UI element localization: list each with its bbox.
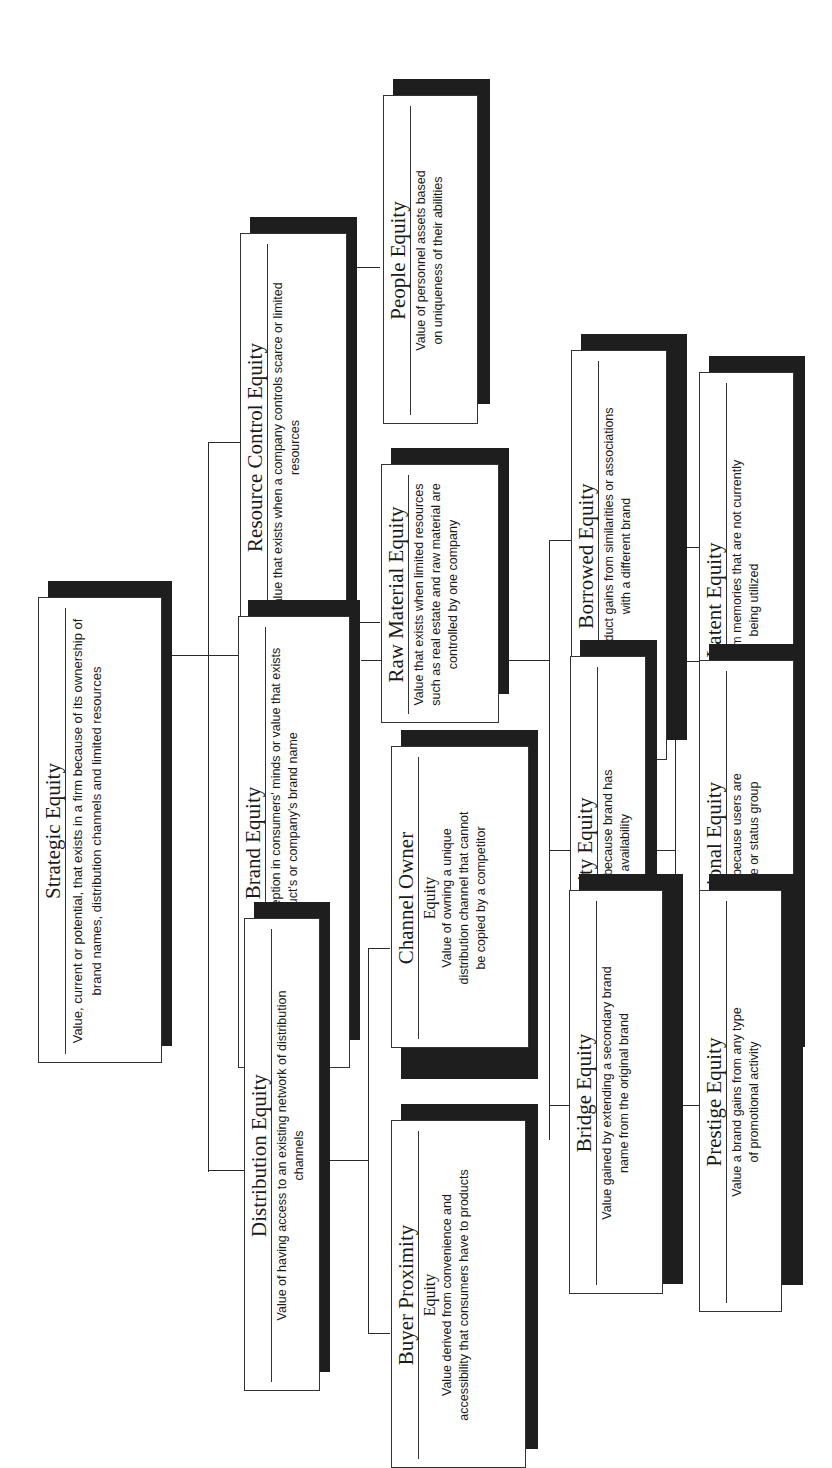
connector bbox=[328, 1160, 368, 1161]
connector bbox=[208, 1170, 244, 1171]
node-title: Channel Owner bbox=[392, 757, 419, 1039]
node-description: Value of owning a unique distribution ch… bbox=[439, 747, 490, 1048]
connector bbox=[549, 540, 550, 1140]
node-description: Value, current or potential, that exists… bbox=[66, 598, 108, 1063]
connector bbox=[549, 1105, 571, 1106]
node-description: Value that exists when a company control… bbox=[268, 234, 306, 660]
node-description: Value gained by extending a secondary br… bbox=[597, 891, 635, 1294]
node-strategic-equity: Strategic Equity Value, current or poten… bbox=[38, 597, 173, 1077]
node-title: Distribution Equity bbox=[245, 929, 272, 1382]
connector bbox=[208, 442, 240, 443]
node-description: Value of personnel assets based on uniqu… bbox=[411, 96, 449, 424]
node-title: People Equity bbox=[384, 106, 411, 415]
node-title: Raw Material Equity bbox=[382, 475, 409, 714]
node-title: Resource Control Equity bbox=[241, 244, 268, 651]
node-title: Bridge Equity bbox=[570, 901, 597, 1285]
node-subtitle: Equity bbox=[419, 747, 439, 1048]
node-description: Value that exists when limited resources… bbox=[409, 465, 464, 723]
connector bbox=[549, 540, 571, 541]
node-title: Prestige Equity bbox=[700, 901, 727, 1303]
node-description: Value a brand gains from any type of pro… bbox=[727, 891, 765, 1312]
connector bbox=[208, 442, 209, 1172]
node-subtitle: Equity bbox=[419, 1121, 439, 1468]
node-description: Value of having access to an existing ne… bbox=[272, 919, 310, 1391]
node-title: Buyer Proximity bbox=[392, 1131, 419, 1459]
connector bbox=[368, 948, 369, 1333]
connector bbox=[172, 655, 240, 656]
connector bbox=[368, 948, 390, 949]
node-title: Strategic Equity bbox=[39, 608, 66, 1054]
node-description: Value derived from convenience and acces… bbox=[439, 1121, 473, 1468]
connector bbox=[368, 1333, 390, 1334]
